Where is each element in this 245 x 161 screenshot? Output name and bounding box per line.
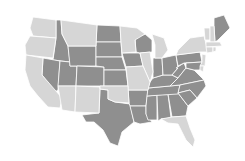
state-wa [30, 17, 56, 38]
state-ri [213, 47, 216, 52]
state-az [58, 86, 76, 112]
state-nm [75, 86, 100, 113]
state-ny [176, 36, 208, 55]
state-ms [146, 95, 157, 120]
state-sd [96, 42, 122, 57]
state-or [25, 36, 56, 58]
state-fl [161, 116, 195, 147]
state-de [200, 66, 204, 72]
state-mi [152, 34, 168, 58]
state-nd [96, 25, 121, 42]
state-ma [206, 42, 222, 47]
state-vt [204, 28, 210, 40]
us-choropleth-map [0, 0, 245, 161]
state-ar [128, 90, 148, 106]
state-co [76, 66, 104, 86]
state-mt [61, 20, 97, 46]
state-nh [210, 26, 215, 42]
state-in [153, 58, 163, 78]
state-wy [68, 46, 96, 66]
state-ks [104, 70, 128, 86]
state-ct [206, 47, 213, 53]
state-me [214, 15, 230, 42]
us-map-svg [0, 0, 245, 161]
state-ia [122, 53, 143, 67]
